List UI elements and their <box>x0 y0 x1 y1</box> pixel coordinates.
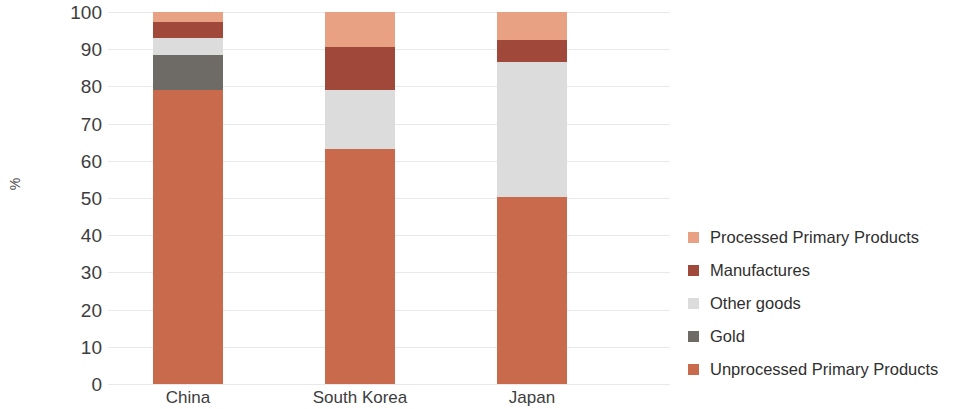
y-axis-tick-label: 20 <box>56 301 102 320</box>
legend-label: Manufactures <box>710 261 810 280</box>
x-axis-label-south-korea: South Korea <box>285 388 435 408</box>
bar-segment-manufactures[interactable] <box>153 22 223 38</box>
bar-segment-processed-primary-products[interactable] <box>325 12 395 47</box>
y-axis-tick-labels: 0102030405060708090100 <box>50 12 102 384</box>
legend-label: Unprocessed Primary Products <box>710 360 938 379</box>
y-axis-tick-label: 30 <box>56 263 102 282</box>
x-axis-label-china: China <box>113 388 263 408</box>
bar-south-korea[interactable] <box>325 12 395 384</box>
legend-label: Processed Primary Products <box>710 228 919 247</box>
bar-china[interactable] <box>153 12 223 384</box>
bar-segment-processed-primary-products[interactable] <box>153 12 223 22</box>
bar-segment-unprocessed-primary-products[interactable] <box>497 197 567 384</box>
bar-segment-other-goods[interactable] <box>497 62 567 197</box>
legend-label: Other goods <box>710 294 801 313</box>
legend-item-gold[interactable]: Gold <box>688 320 938 353</box>
y-axis-tick-label: 70 <box>56 115 102 134</box>
bar-segment-processed-primary-products[interactable] <box>497 12 567 40</box>
legend-item-unprocessed-primary-products[interactable]: Unprocessed Primary Products <box>688 353 938 386</box>
bar-segment-manufactures[interactable] <box>497 40 567 62</box>
plot-area <box>108 12 670 384</box>
y-axis-tick-label: 90 <box>56 40 102 59</box>
legend-item-manufactures[interactable]: Manufactures <box>688 254 938 287</box>
y-axis-tick-label: 50 <box>56 189 102 208</box>
legend-label: Gold <box>710 327 745 346</box>
y-axis-tick-label: 60 <box>56 152 102 171</box>
bar-japan[interactable] <box>497 12 567 384</box>
bar-segment-unprocessed-primary-products[interactable] <box>153 90 223 384</box>
legend-item-processed-primary-products[interactable]: Processed Primary Products <box>688 221 938 254</box>
y-axis-tick-label: 100 <box>56 3 102 22</box>
legend-swatch-icon <box>688 364 699 375</box>
chart-legend: Processed Primary ProductsManufacturesOt… <box>688 221 938 386</box>
y-axis-tick-label: 0 <box>56 375 102 394</box>
y-axis-tick-label: 40 <box>56 226 102 245</box>
y-axis-tick-label: 80 <box>56 77 102 96</box>
gridline <box>108 384 670 385</box>
stacked-bar-chart: % 0102030405060708090100 ChinaSouth Kore… <box>0 0 964 409</box>
bar-segment-unprocessed-primary-products[interactable] <box>325 149 395 384</box>
y-axis-tick-label: 10 <box>56 338 102 357</box>
legend-swatch-icon <box>688 265 699 276</box>
bar-segment-gold[interactable] <box>153 55 223 90</box>
bar-segment-manufactures[interactable] <box>325 47 395 90</box>
bar-segment-other-goods[interactable] <box>325 90 395 149</box>
legend-swatch-icon <box>688 331 699 342</box>
x-axis-label-japan: Japan <box>457 388 607 408</box>
y-axis-title: % <box>7 171 23 197</box>
bar-segment-other-goods[interactable] <box>153 38 223 55</box>
legend-swatch-icon <box>688 232 699 243</box>
legend-swatch-icon <box>688 298 699 309</box>
legend-item-other-goods[interactable]: Other goods <box>688 287 938 320</box>
